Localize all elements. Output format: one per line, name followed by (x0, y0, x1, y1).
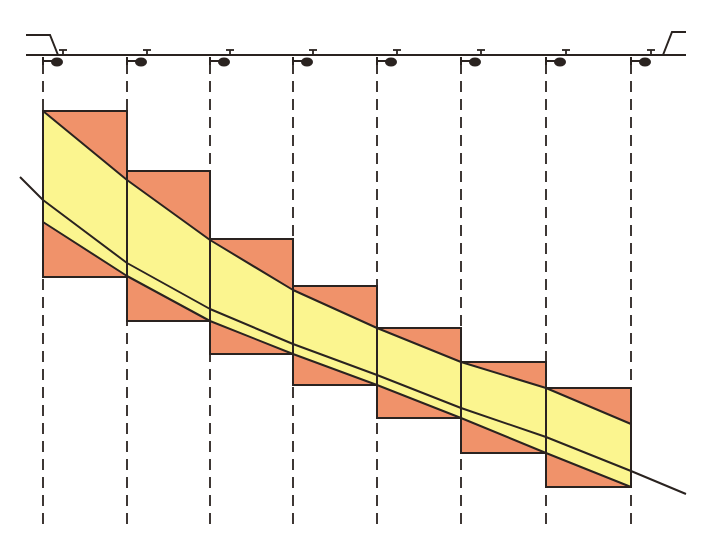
lateral-pipe (26, 32, 686, 55)
sprinkler-head-icon (377, 50, 401, 67)
sprinkler-head-icon (210, 50, 234, 67)
right-riser (663, 32, 686, 55)
sprinkler-heads (43, 50, 655, 67)
left-riser (26, 35, 58, 55)
diagram-canvas: Sprinkler irrigation uniformity diagram (0, 0, 704, 554)
diagram-title: Sprinkler irrigation uniformity diagram (0, 0, 1, 1)
sprinkler-head-icon (293, 50, 317, 67)
sprinkler-head-icon (461, 50, 485, 67)
sprinkler-head-icon (43, 50, 67, 67)
sprinkler-head-icon (546, 50, 570, 67)
sprinkler-head-icon (127, 50, 151, 67)
sprinkler-head-icon (631, 50, 655, 67)
irrigation-diagram (0, 0, 704, 554)
